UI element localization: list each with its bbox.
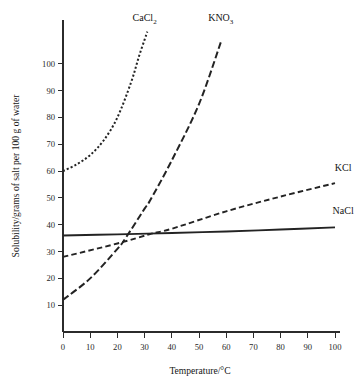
curve-CaCl2: [63, 32, 147, 171]
x-tick-label: 90: [304, 342, 313, 352]
curve-label-KCl: KCl: [335, 162, 352, 173]
x-tick-label: 20: [113, 342, 122, 352]
curve-KNO3: [63, 42, 221, 299]
x-tick-label: 70: [249, 342, 258, 352]
x-tick-label: 100: [329, 342, 342, 352]
curve-NaCl: [63, 227, 335, 235]
y-tick-group: 102030405060708090100: [42, 59, 63, 310]
x-axis: 0102030405060708090100 Temperature/°C: [61, 332, 342, 376]
y-axis-title: Solubility/grams of salt per 100 g of wa…: [10, 94, 21, 258]
x-tick-label: 50: [195, 342, 204, 352]
y-tick-label: 60: [46, 166, 55, 176]
y-tick-label: 90: [46, 86, 55, 96]
x-tick-label: 30: [140, 342, 149, 352]
curve-group: [63, 32, 335, 300]
curve-label-CaCl2: CaCl2: [133, 12, 158, 26]
curve-KCl: [63, 183, 335, 257]
curve-label-group: CaCl2KNO3KClNaCl: [133, 12, 354, 216]
x-axis-title: Temperature/°C: [169, 365, 230, 376]
x-tick-label: 40: [168, 342, 177, 352]
y-tick-label: 70: [46, 139, 55, 149]
y-tick-label: 20: [46, 273, 55, 283]
y-axis: 102030405060708090100 Solubility/grams o…: [10, 20, 63, 332]
x-tick-label: 60: [222, 342, 231, 352]
x-tick-label: 80: [276, 342, 285, 352]
x-tick-label: 0: [61, 342, 65, 352]
y-tick-label: 100: [42, 59, 55, 69]
y-tick-label: 10: [46, 300, 55, 310]
solubility-chart: 102030405060708090100 Solubility/grams o…: [0, 0, 354, 390]
x-tick-group: 0102030405060708090100: [61, 332, 342, 352]
curve-label-NaCl: NaCl: [333, 205, 354, 216]
curve-label-KNO3: KNO3: [208, 12, 234, 26]
y-tick-label: 30: [46, 247, 55, 257]
y-tick-label: 80: [46, 112, 55, 122]
y-tick-label: 40: [46, 220, 55, 230]
chart-canvas: 102030405060708090100 Solubility/grams o…: [0, 0, 354, 390]
x-tick-label: 10: [86, 342, 95, 352]
y-tick-label: 50: [46, 193, 55, 203]
